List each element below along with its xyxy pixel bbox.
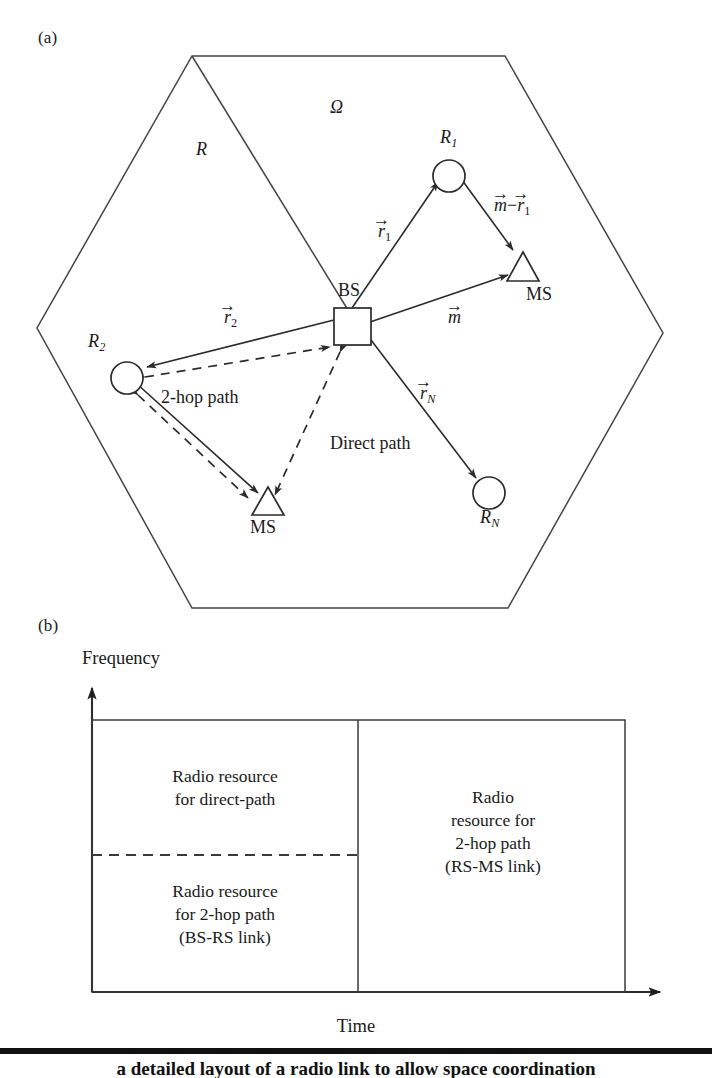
- resource-block-two-hop-bs-rs-line-3: (BS-RS link): [96, 926, 354, 949]
- relay-label-rn: RN: [480, 508, 499, 530]
- resource-block-two-hop-rs-ms-line-2: resource for: [362, 809, 624, 832]
- figure-caption: a detailed layout of a radio link to all…: [0, 1058, 712, 1078]
- mobile-station-label-bottom: MS: [250, 518, 276, 537]
- relay-label-r1-sub: 1: [451, 136, 457, 150]
- resource-block-two-hop-bs-rs: Radio resource for 2-hop path (BS-RS lin…: [96, 880, 354, 949]
- resource-block-two-hop-rs-ms-line-1: Radio: [362, 786, 624, 809]
- base-station-label: BS: [338, 281, 360, 300]
- resource-block-two-hop-bs-rs-line-2: for 2-hop path: [96, 903, 354, 926]
- relay-label-r1-base: R: [440, 127, 451, 147]
- link-bs-r1: [352, 182, 438, 308]
- relay-node-rn: [473, 477, 505, 509]
- resource-block-direct-path-line-1: Radio resource: [96, 765, 354, 788]
- link-bs-r2: [147, 320, 334, 367]
- resource-block-direct-path-line-2: for direct-path: [96, 788, 354, 811]
- resource-block-two-hop-rs-ms: Radio resource for 2-hop path (RS-MS lin…: [362, 786, 624, 878]
- caption-divider-rule: [0, 1048, 712, 1054]
- resource-block-two-hop-bs-rs-line-1: Radio resource: [96, 880, 354, 903]
- region-symbol-omega: Ω: [330, 98, 343, 117]
- resource-block-two-hop-rs-ms-line-3: 2-hop path: [362, 832, 624, 855]
- two-hop-path-label: 2-hop path: [161, 388, 238, 407]
- direct-path-bs-ms: [275, 352, 340, 495]
- mobile-station-node-right: [507, 252, 539, 281]
- vector-label-m: →m: [448, 308, 461, 327]
- relay-node-r2: [111, 362, 143, 394]
- vector-label-rn: →rN: [420, 384, 435, 406]
- figure-container: (a) (b): [0, 0, 712, 1078]
- time-axis-label: Time: [0, 1016, 712, 1037]
- relay-label-rn-sub: N: [491, 516, 499, 530]
- relay-label-r2-base: R: [88, 331, 99, 351]
- two-hop-path-bs-r2: [145, 347, 330, 377]
- frequency-axis-label: Frequency: [82, 648, 160, 669]
- base-station-node: [334, 308, 371, 345]
- resource-block-two-hop-rs-ms-line-4: (RS-MS link): [362, 855, 624, 878]
- vector-label-r1: →r1: [378, 222, 391, 244]
- link-bs-rn: [368, 336, 476, 478]
- vector-label-m-minus-r1: →m−→r1: [494, 196, 530, 218]
- two-hop-path-r2-ms: [138, 395, 248, 498]
- cell-radius-line: [192, 56, 348, 310]
- relay-label-r1: R1: [440, 128, 457, 150]
- vector-label-r2: →r2: [224, 308, 237, 330]
- radius-label: R: [196, 140, 207, 159]
- relay-label-r2: R2: [88, 332, 105, 354]
- link-bs-ms-right: [370, 275, 508, 322]
- mobile-station-label-right: MS: [526, 285, 552, 304]
- relay-label-r2-sub: 2: [99, 340, 105, 354]
- relay-node-r1: [433, 160, 465, 192]
- relay-label-rn-base: R: [480, 507, 491, 527]
- resource-block-direct-path: Radio resource for direct-path: [96, 765, 354, 811]
- direct-path-label: Direct path: [330, 434, 410, 453]
